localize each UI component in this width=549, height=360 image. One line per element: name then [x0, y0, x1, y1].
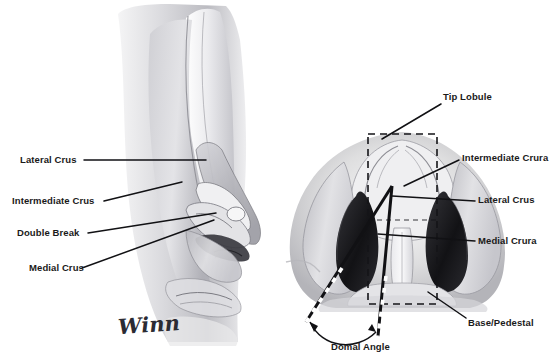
- artist-signature: Winn: [117, 310, 180, 339]
- label-lateral-crus-base: Lateral Crus: [478, 195, 535, 205]
- label-intermediate-crus: Intermediate Crus: [12, 196, 94, 206]
- label-intermediate-crura: Intermediate Crura: [462, 153, 548, 163]
- label-tip-lobule: Tip Lobule: [443, 92, 492, 102]
- label-base-pedestal: Base/Pedestal: [468, 318, 534, 328]
- label-domal-angle: Domal Angle: [331, 342, 390, 352]
- anatomy-figure: Lateral Crus Intermediate Crus Double Br…: [0, 0, 549, 360]
- label-lateral-crus: Lateral Crus: [20, 155, 77, 165]
- label-double-break: Double Break: [17, 228, 79, 238]
- figure-artwork: [0, 0, 549, 360]
- label-medial-crus: Medial Crus: [29, 263, 84, 273]
- lateral-view-art: [118, 4, 261, 346]
- label-medial-crura: Medial Crura: [478, 236, 537, 246]
